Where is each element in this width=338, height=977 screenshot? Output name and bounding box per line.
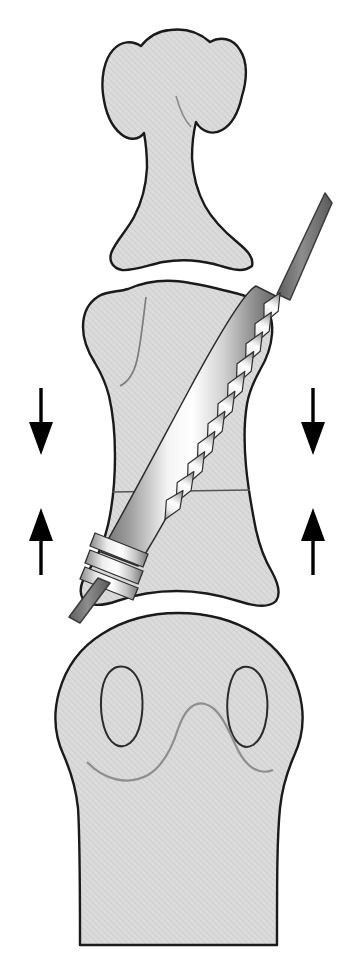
illustration-canvas: [0, 0, 338, 977]
bone-proximal-phalanx: [56, 613, 303, 945]
medical-illustration-figure: [0, 0, 338, 977]
